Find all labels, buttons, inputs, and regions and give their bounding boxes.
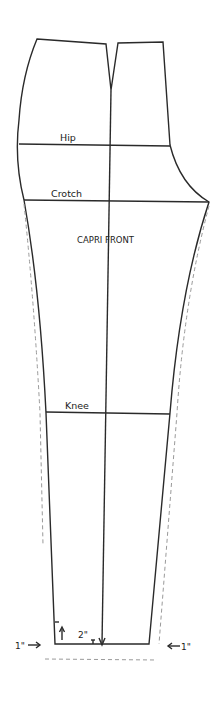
hip-label: Hip	[60, 132, 76, 143]
knee-line	[46, 412, 170, 414]
crotch-line	[24, 200, 209, 202]
pattern-title: CAPRI FRONT	[77, 235, 135, 245]
left-extension-label: 1"	[15, 641, 25, 651]
pattern-outline	[17, 39, 209, 644]
right-dashed-extension	[159, 206, 209, 644]
grain-line	[102, 90, 111, 644]
crotch-label: Crotch	[51, 188, 82, 199]
hem-dashed-extension	[45, 659, 157, 660]
knee-label: Knee	[65, 400, 89, 411]
hip-line	[19, 144, 170, 146]
hem-raise-label: 2"	[78, 630, 88, 640]
left-dashed-extension	[24, 204, 43, 545]
right-extension-label: 1"	[181, 642, 191, 652]
capri-front-pattern: Hip Crotch CAPRI FRONT Knee 2" 1" 1"	[0, 0, 222, 706]
